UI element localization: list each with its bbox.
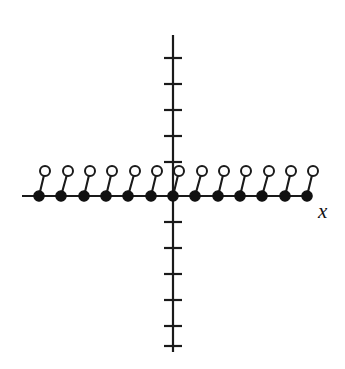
closed-endpoint-marker [56,191,66,201]
open-endpoint-marker [286,166,296,176]
open-endpoint-marker [197,166,207,176]
open-endpoint-marker [174,166,184,176]
closed-endpoint-marker [280,191,290,201]
x-axis-label: x [317,199,328,223]
open-endpoint-marker [264,166,274,176]
open-endpoint-marker [219,166,229,176]
open-endpoint-marker [107,166,117,176]
closed-endpoint-marker [34,191,44,201]
closed-endpoint-marker [123,191,133,201]
closed-endpoint-marker [302,191,312,201]
open-endpoint-marker [130,166,140,176]
closed-endpoint-marker [257,191,267,201]
closed-endpoint-marker [213,191,223,201]
open-endpoint-marker [85,166,95,176]
closed-endpoint-marker [168,191,178,201]
closed-endpoint-marker [79,191,89,201]
closed-endpoint-marker [235,191,245,201]
open-endpoint-marker [40,166,50,176]
open-endpoint-marker [63,166,73,176]
graph-figure: x [0,0,345,369]
open-endpoint-marker [241,166,251,176]
closed-endpoint-marker [190,191,200,201]
closed-endpoint-marker [101,191,111,201]
open-endpoint-marker [308,166,318,176]
closed-endpoint-marker [146,191,156,201]
coordinate-plane-svg: x [0,0,345,369]
open-endpoint-marker [152,166,162,176]
